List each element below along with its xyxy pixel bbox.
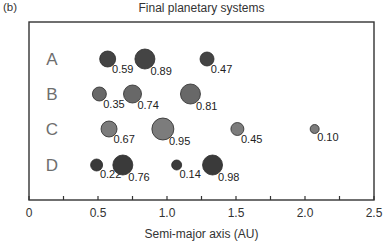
x-tick-label: 1.5 [228,206,245,220]
planet-mass-label: 0.35 [103,98,124,110]
x-tick-label: 2.0 [297,206,314,220]
row-label-c: C [46,120,58,139]
planet-mass-label: 0.67 [113,133,134,145]
x-tick-label: 1.0 [159,206,176,220]
x-tick-label: 0 [26,206,33,220]
row-label-a: A [46,50,58,69]
planet-mass-label: 0.81 [196,100,217,112]
planet-mass-label: 0.14 [179,168,200,180]
scatter-plot: 00.51.01.52.02.5A0.590.890.47B0.350.740.… [0,0,383,246]
row-label-d: D [46,156,58,175]
x-tick-label: 0.5 [90,206,107,220]
planet-mass-label: 0.59 [112,63,133,75]
row-label-b: B [46,85,57,104]
x-tick-label: 2.5 [366,206,383,220]
planet-mass-label: 0.89 [150,65,171,77]
planet-mass-label: 0.95 [169,135,190,147]
planet-mass-label: 0.76 [128,171,149,183]
planet-mass-label: 0.45 [241,133,262,145]
planet-mass-label: 0.74 [137,99,158,111]
planet-mass-label: 0.47 [211,63,232,75]
planet-mass-label: 0.98 [218,171,239,183]
planet-mass-label: 0.10 [317,131,338,143]
x-axis-label: Semi-major axis (AU) [29,227,374,241]
